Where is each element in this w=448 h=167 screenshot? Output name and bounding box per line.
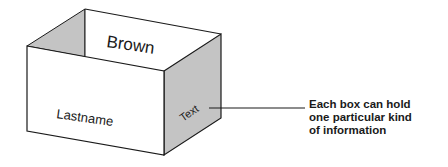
caption-line: of information <box>309 124 412 137</box>
caption: Each box can hold one particular kind of… <box>309 98 412 137</box>
caption-line: Each box can hold <box>309 98 412 111</box>
box-diagram: Brown Lastname Text <box>0 0 448 167</box>
caption-line: one particular kind <box>309 111 412 124</box>
